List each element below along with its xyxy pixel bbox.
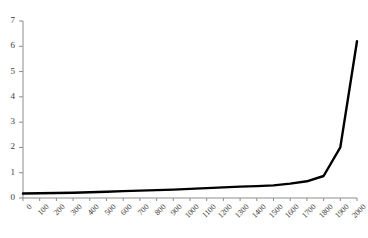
y-axis-tick-label: 7	[1, 16, 15, 25]
y-axis-tick-label: 6	[1, 41, 15, 50]
y-axis-tick-marks	[19, 21, 23, 198]
y-axis-tick-label: 2	[1, 142, 15, 151]
y-axis-tick-label: 1	[1, 168, 15, 177]
y-axis-tick-label: 3	[1, 117, 15, 126]
chart-container: 01234567 0100200300400500600700800900100…	[0, 0, 368, 238]
y-axis-tick-label: 0	[1, 193, 15, 202]
data-series-line	[23, 41, 357, 193]
x-axis-tick-marks	[23, 198, 357, 201]
y-axis-tick-label: 5	[1, 67, 15, 76]
chart-plot-area	[0, 0, 368, 238]
y-axis-tick-label: 4	[1, 92, 15, 101]
chart-axes	[23, 21, 357, 198]
